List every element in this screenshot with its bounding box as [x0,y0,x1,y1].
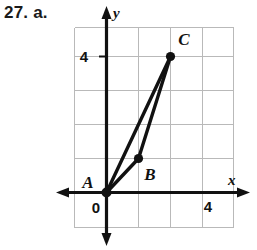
segment-a-to-b [107,159,139,193]
coordinate-plane-plot: y x 4 4 0 A B C [0,0,257,250]
y-axis-up-arrow-icon [102,6,112,19]
x-axis-left-arrow-icon [56,188,69,198]
figure-container: 27. a. [0,0,257,250]
vertex-dot-c [166,52,175,61]
text-labels: y x 4 4 0 A B C [80,5,236,216]
axis-group [56,6,250,246]
vertex-label-b: B [143,165,155,184]
y-axis-label: y [111,5,120,21]
x-axis-label: x [227,172,236,188]
vertex-label-a: A [81,173,93,192]
vertex-label-c: C [178,30,190,49]
y-tick-label-4: 4 [80,48,89,65]
y-axis-down-arrow-icon [102,233,112,246]
vertex-dot-b [134,154,143,163]
vertex-dot-a [102,188,112,198]
x-tick-label-4: 4 [204,198,213,215]
segment-b-to-c [139,57,171,159]
x-axis-right-arrow-icon [237,188,250,198]
origin-label: 0 [92,199,100,216]
